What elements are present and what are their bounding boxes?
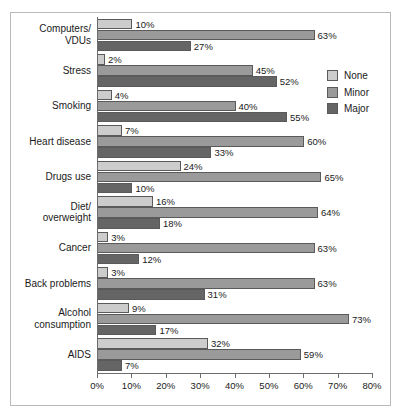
bar-row: 33% [98, 147, 399, 158]
bar-value-label: 4% [112, 89, 129, 100]
bar-row: 2% [98, 54, 399, 65]
bar-value-label: 3% [108, 231, 125, 242]
bar-minor[interactable] [98, 243, 315, 254]
bar-none[interactable] [98, 161, 181, 172]
bar-none[interactable] [98, 267, 108, 278]
bar-minor[interactable] [98, 136, 304, 147]
legend-label: Minor [344, 87, 369, 98]
bar-group: AIDS32%59%7% [11, 337, 390, 373]
bar-group: Alcoholconsumption9%73%17% [11, 301, 390, 337]
bar-major[interactable] [98, 254, 139, 265]
x-axis-tick [338, 374, 339, 378]
bar-value-label: 45% [253, 65, 275, 76]
legend-label: Major [344, 103, 369, 114]
legend-item-none[interactable]: None [327, 68, 391, 84]
bar-value-label: 63% [315, 278, 337, 289]
bar-group: Computers/VDUs10%63%27% [11, 17, 390, 53]
bar-row: 3% [98, 232, 399, 243]
bar-group: Cancer3%63%12% [11, 230, 390, 266]
bar-group-bars: 3%63%12% [98, 231, 390, 265]
legend-swatch-major [327, 103, 338, 114]
bar-value-label: 27% [191, 40, 213, 51]
bar-value-label: 16% [153, 196, 175, 207]
bar-value-label: 12% [139, 253, 161, 264]
bar-value-label: 52% [277, 76, 299, 87]
chart-figure: 0%10%20%30%40%50%60%70%80% Computers/VDU… [10, 12, 391, 406]
x-axis-tick [200, 374, 201, 378]
chart-legend: NoneMinorMajor [327, 68, 391, 118]
category-label: Alcoholconsumption [11, 301, 91, 337]
bar-row: 60% [98, 136, 399, 147]
bar-major[interactable] [98, 325, 156, 336]
category-label: Computers/VDUs [11, 17, 91, 53]
bar-minor[interactable] [98, 30, 315, 41]
bar-row: 31% [98, 289, 399, 300]
bar-minor[interactable] [98, 314, 349, 325]
x-axis-tick [235, 374, 236, 378]
bar-none[interactable] [98, 125, 122, 136]
bar-none[interactable] [98, 232, 108, 243]
bar-value-label: 63% [315, 29, 337, 40]
bar-value-label: 33% [211, 147, 233, 158]
x-axis-tick [269, 374, 270, 378]
bar-major[interactable] [98, 112, 287, 123]
bar-none[interactable] [98, 19, 132, 30]
bar-none[interactable] [98, 196, 153, 207]
bar-row: 12% [98, 254, 399, 265]
bar-value-label: 10% [132, 182, 154, 193]
bar-value-label: 7% [122, 125, 139, 136]
bar-major[interactable] [98, 41, 191, 52]
bar-row: 16% [98, 196, 399, 207]
bar-major[interactable] [98, 76, 277, 87]
bar-row: 65% [98, 172, 399, 183]
category-label: Heart disease [11, 124, 91, 160]
bar-major[interactable] [98, 183, 132, 194]
bar-none[interactable] [98, 90, 112, 101]
bar-minor[interactable] [98, 101, 236, 112]
bar-minor[interactable] [98, 172, 321, 183]
bar-value-label: 17% [156, 324, 178, 335]
bar-major[interactable] [98, 218, 160, 229]
bar-none[interactable] [98, 338, 208, 349]
x-axis-tick-label: 80% [352, 380, 392, 391]
bar-minor[interactable] [98, 207, 318, 218]
bar-minor[interactable] [98, 349, 301, 360]
bar-row: 9% [98, 303, 399, 314]
bar-group-bars: 24%65%10% [98, 160, 390, 194]
bar-major[interactable] [98, 147, 211, 158]
bar-row: 10% [98, 183, 399, 194]
bar-value-label: 59% [301, 349, 323, 360]
bar-value-label: 9% [129, 302, 146, 313]
bar-value-label: 10% [132, 18, 154, 29]
bar-group: Diet/overweight16%64%18% [11, 195, 390, 231]
bar-row: 3% [98, 267, 399, 278]
bar-minor[interactable] [98, 65, 253, 76]
legend-item-minor[interactable]: Minor [327, 85, 391, 101]
legend-swatch-minor [327, 87, 338, 98]
bar-row: 63% [98, 278, 399, 289]
legend-item-major[interactable]: Major [327, 101, 391, 117]
bar-none[interactable] [98, 54, 105, 65]
bar-major[interactable] [98, 289, 205, 300]
bar-group-bars: 32%59%7% [98, 338, 390, 372]
bar-minor[interactable] [98, 278, 315, 289]
legend-swatch-none [327, 70, 338, 81]
bar-row: 17% [98, 325, 399, 336]
bar-value-label: 40% [236, 100, 258, 111]
bar-value-label: 73% [349, 313, 371, 324]
bar-value-label: 60% [304, 136, 326, 147]
category-label: Stress [11, 53, 91, 89]
legend-label: None [344, 70, 368, 81]
category-label: AIDS [11, 337, 91, 373]
bar-group: Back problems3%63%31% [11, 266, 390, 302]
bar-group-bars: 16%64%18% [98, 196, 390, 230]
bar-row: 7% [98, 360, 399, 371]
category-label: Drugs use [11, 159, 91, 195]
bar-row: 27% [98, 41, 399, 52]
bar-none[interactable] [98, 303, 129, 314]
category-label: Back problems [11, 266, 91, 302]
x-axis-tick [166, 374, 167, 378]
bar-group-bars: 9%73%17% [98, 302, 390, 336]
bar-major[interactable] [98, 360, 122, 371]
category-label: Smoking [11, 88, 91, 124]
